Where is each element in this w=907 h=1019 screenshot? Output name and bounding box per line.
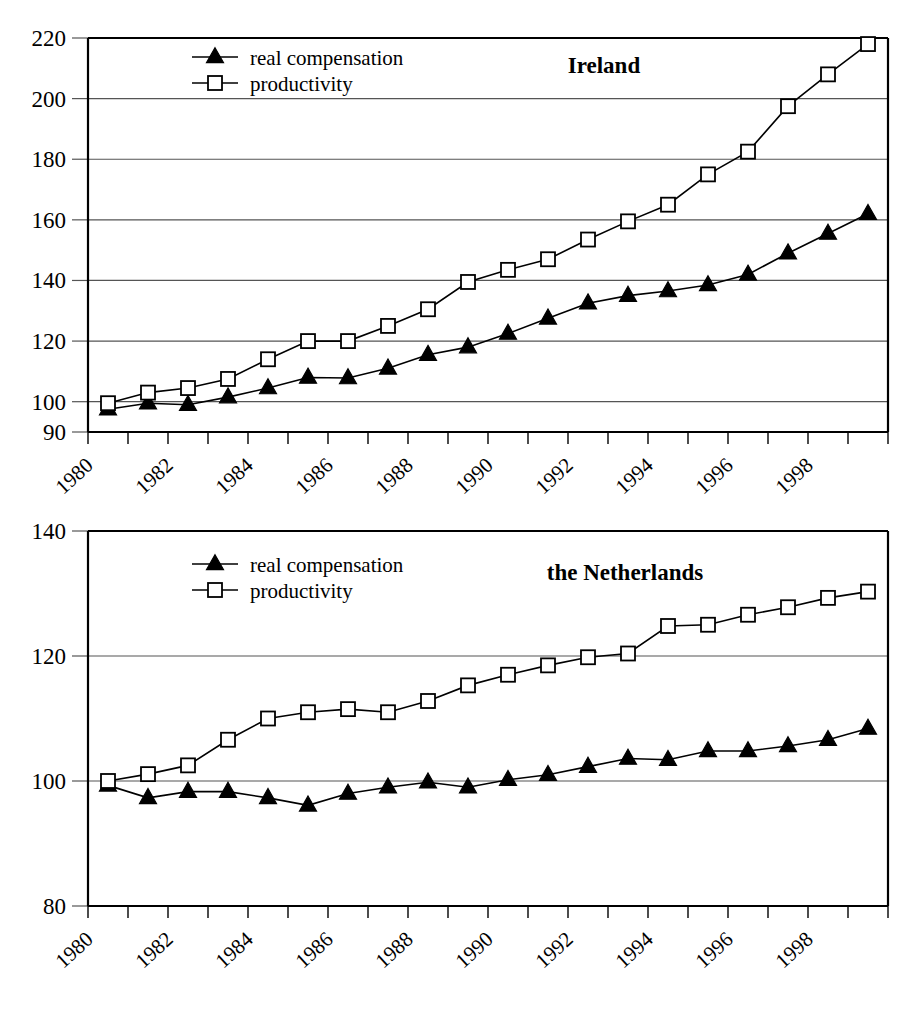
chart-panel-netherlands: 8010012014019801982198419861988199019921… [0, 500, 907, 1019]
xtick-label-1980: 1980 [50, 453, 97, 499]
filled-triangle-marker [860, 204, 877, 219]
open-square-marker [421, 694, 435, 708]
filled-triangle-marker [780, 244, 797, 259]
filled-triangle-marker [220, 782, 237, 797]
ytick-label-100: 100 [32, 390, 67, 415]
xtick-label-1988: 1988 [370, 927, 417, 973]
xtick-label-group-1994: 1994 [610, 453, 658, 499]
legend-label: productivity [250, 579, 353, 603]
ytick-label-120: 120 [32, 329, 67, 354]
open-square-marker [821, 67, 835, 81]
ytick-label-90: 90 [43, 420, 66, 445]
filled-triangle-marker [660, 282, 677, 297]
xtick-label-1984: 1984 [210, 927, 258, 973]
ytick-label-140: 140 [32, 268, 67, 293]
filled-triangle-marker [820, 224, 837, 239]
legend-entry-real-compensation: real compensation [192, 553, 404, 577]
filled-triangle-marker [500, 770, 517, 785]
open-square-marker [861, 585, 875, 599]
xtick-label-group-1996: 1996 [690, 453, 737, 499]
filled-triangle-marker [340, 784, 357, 799]
open-square-marker [461, 678, 475, 692]
xtick-label-group-1998: 1998 [770, 927, 817, 973]
chart-title: the Netherlands [547, 560, 704, 585]
open-square-marker [341, 702, 355, 716]
legend-label: real compensation [250, 553, 404, 577]
ytick-label-160: 160 [32, 208, 67, 233]
ytick-label-140: 140 [32, 519, 67, 544]
open-square-marker [621, 647, 635, 661]
open-square-marker [501, 263, 515, 277]
legend-entry-productivity: productivity [192, 579, 353, 603]
ytick-label-100: 100 [32, 769, 67, 794]
open-square-marker [341, 334, 355, 348]
open-square-marker [541, 658, 555, 672]
xtick-label-group-1980: 1980 [50, 453, 97, 499]
open-square-marker [581, 233, 595, 247]
ireland-line-chart: 9010012014016018020022019801982198419861… [0, 0, 907, 510]
open-square-marker [301, 334, 315, 348]
open-square-marker [261, 352, 275, 366]
ytick-label-200: 200 [32, 87, 67, 112]
open-square-marker [661, 619, 675, 633]
ytick-label-120: 120 [32, 644, 67, 669]
open-square-marker [181, 381, 195, 395]
open-square-marker [461, 275, 475, 289]
open-square-marker [781, 99, 795, 113]
legend-entry-productivity: productivity [192, 72, 353, 96]
open-square-marker [781, 600, 795, 614]
xtick-label-group-1986: 1986 [290, 927, 337, 973]
xtick-label-group-1990: 1990 [450, 453, 497, 499]
xtick-label-1990: 1990 [450, 927, 497, 973]
filled-triangle-marker [260, 789, 277, 804]
open-square-marker [381, 705, 395, 719]
xtick-label-group-1994: 1994 [610, 927, 658, 973]
open-square-marker [221, 372, 235, 386]
filled-triangle-marker [620, 286, 637, 301]
ytick-label-220: 220 [32, 26, 67, 51]
xtick-label-1982: 1982 [130, 927, 177, 973]
open-square-marker [581, 650, 595, 664]
open-square-marker [501, 668, 515, 682]
open-square-marker [541, 252, 555, 266]
open-square-marker [821, 591, 835, 605]
xtick-label-group-1996: 1996 [690, 927, 737, 973]
filled-triangle-marker [207, 48, 224, 63]
legend-entry-real-compensation: real compensation [192, 46, 404, 70]
xtick-label-1986: 1986 [290, 927, 337, 973]
open-square-marker [101, 396, 115, 410]
xtick-label-group-1984: 1984 [210, 453, 258, 499]
open-square-marker [141, 386, 155, 400]
xtick-label-group-1988: 1988 [370, 453, 417, 499]
open-square-marker [208, 583, 222, 597]
open-square-marker [701, 618, 715, 632]
xtick-label-1998: 1998 [770, 453, 817, 499]
open-square-marker [421, 302, 435, 316]
open-square-marker [221, 733, 235, 747]
ytick-label-180: 180 [32, 147, 67, 172]
filled-triangle-marker [860, 719, 877, 734]
xtick-label-group-1992: 1992 [530, 927, 577, 973]
xtick-label-group-1980: 1980 [50, 927, 97, 973]
xtick-label-1980: 1980 [50, 927, 97, 973]
xtick-label-1986: 1986 [290, 453, 337, 499]
xtick-label-1990: 1990 [450, 453, 497, 499]
open-square-marker [741, 608, 755, 622]
netherlands-line-chart: 8010012014019801982198419861988199019921… [0, 500, 907, 1019]
open-square-marker [621, 214, 635, 228]
xtick-label-group-1986: 1986 [290, 453, 337, 499]
open-square-marker [141, 767, 155, 781]
open-square-marker [101, 774, 115, 788]
open-square-marker [861, 37, 875, 51]
xtick-label-group-1982: 1982 [130, 453, 177, 499]
filled-triangle-marker [180, 782, 197, 797]
open-square-marker [208, 76, 222, 90]
series-line-productivity [108, 44, 868, 403]
xtick-label-1996: 1996 [690, 927, 737, 973]
filled-triangle-marker [740, 742, 757, 757]
filled-triangle-marker [740, 265, 757, 280]
xtick-label-1982: 1982 [130, 453, 177, 499]
xtick-label-group-1998: 1998 [770, 453, 817, 499]
filled-triangle-marker [620, 749, 637, 764]
ytick-label-80: 80 [43, 894, 66, 919]
